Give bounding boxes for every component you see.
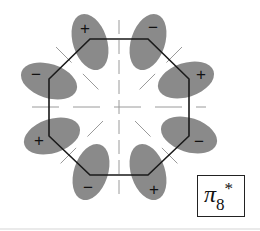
lobe-bottom-right	[123, 139, 173, 205]
sign-bottom-left: −	[83, 178, 93, 197]
lobe-top-left	[65, 9, 115, 75]
orbital-label-box: π8*	[197, 175, 245, 217]
orbital-superscript: *	[225, 179, 234, 198]
sign-left-top: −	[31, 65, 41, 84]
sign-right-top: +	[196, 65, 206, 84]
lobe-left-bottom	[19, 111, 85, 161]
orbital-label: π8*	[204, 182, 233, 206]
orbital-subscript: 8	[216, 195, 225, 214]
orbital-symbol: π	[204, 181, 216, 207]
sign-bottom-right: +	[149, 180, 159, 199]
sign-top-right: −	[148, 18, 158, 37]
lobe-right-top	[153, 55, 219, 105]
sign-left-bottom: +	[34, 131, 44, 150]
nodal-planes	[32, 20, 206, 195]
sign-top-left: +	[80, 19, 90, 38]
bottom-divider	[0, 228, 260, 230]
sign-right-bottom: −	[194, 132, 204, 151]
